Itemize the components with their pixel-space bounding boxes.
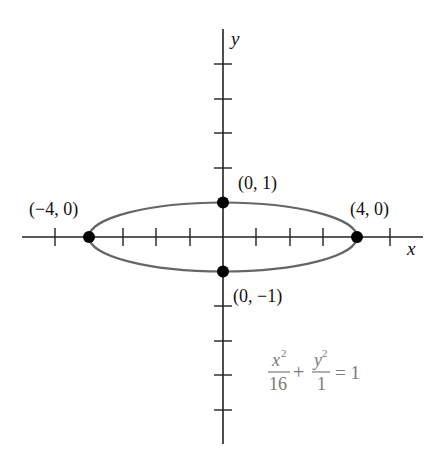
- ellipse-equation: x 2 16 + y 2 1 = 1: [268, 347, 360, 394]
- point-bottom-covertex: [217, 266, 229, 278]
- eq-term1-numerator: x: [271, 350, 280, 370]
- label-top-covertex: (0, 1): [238, 173, 277, 194]
- eq-term2-denominator: 1: [317, 374, 326, 394]
- point-left-vertex: [83, 231, 95, 243]
- label-right-vertex: (4, 0): [350, 199, 389, 220]
- point-right-vertex: [351, 231, 363, 243]
- label-bottom-covertex: (0, −1): [233, 286, 282, 307]
- eq-term2-exponent: 2: [322, 347, 328, 359]
- point-top-covertex: [217, 197, 229, 209]
- eq-term1-denominator: 16: [269, 374, 287, 394]
- x-axis-label: x: [406, 238, 416, 259]
- y-axis-label: y: [229, 28, 240, 49]
- eq-term2-numerator: y: [312, 350, 322, 370]
- eq-term1-exponent: 2: [281, 347, 287, 359]
- eq-plus: +: [293, 361, 304, 383]
- eq-equals-one: = 1: [335, 362, 360, 383]
- label-left-vertex: (−4, 0): [29, 199, 78, 220]
- ellipse-figure: x y (−4, 0) (4, 0) (0, 1) (0, −1) x 2 16…: [0, 0, 446, 465]
